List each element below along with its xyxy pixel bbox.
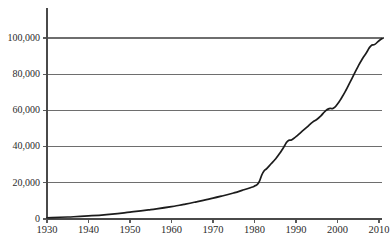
x-axis-tick-labels: 193019401950196019701980199020002010 [37, 224, 390, 235]
line-chart: 020,00040,00060,00080,000100,000 1930194… [0, 0, 392, 252]
chart-svg: 020,00040,00060,00080,000100,000 1930194… [0, 0, 392, 252]
x-tick-label: 2000 [327, 224, 348, 235]
x-tick-label: 1950 [120, 224, 141, 235]
y-tick-label: 60,000 [13, 104, 41, 115]
y-tick-label: 80,000 [13, 68, 41, 79]
x-tick-label: 1960 [161, 224, 182, 235]
x-tick-label: 1990 [286, 224, 307, 235]
x-tick-label: 1930 [37, 224, 58, 235]
x-tick-label: 1980 [244, 224, 265, 235]
x-tick-label: 2010 [369, 224, 390, 235]
y-tick-label: 40,000 [13, 140, 41, 151]
x-tick-label: 1970 [203, 224, 224, 235]
y-tick-label: 0 [35, 213, 40, 224]
y-tick-label: 100,000 [8, 32, 41, 43]
x-tick-label: 1940 [78, 224, 99, 235]
y-tick-label: 20,000 [13, 177, 41, 188]
